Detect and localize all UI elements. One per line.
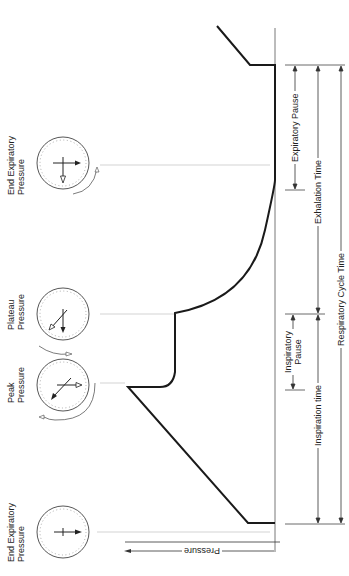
gauge-label-line1: Peak (6, 367, 16, 403)
gauge-label-line1: Plateau (6, 294, 16, 330)
inspiration-time-label: Inspiration time (313, 383, 323, 448)
gauge-label-plateau: Plateau Pressure (6, 294, 26, 330)
respiratory-cycle-time-label: Respiratory Cycle Time (336, 251, 346, 348)
gauge-end-expiratory-top (37, 137, 99, 194)
gauge-label-line2: Pressure (16, 136, 26, 195)
gauge-label-peak: Peak Pressure (6, 367, 26, 403)
pressure-waveform (128, 26, 275, 523)
gauge-plateau (37, 288, 89, 356)
exhalation-time-label: Exhalation Time (313, 158, 323, 226)
gauge-label-line2: Pressure (16, 294, 26, 330)
guide-lines (97, 165, 270, 532)
gauge-end-expiratory-bottom (37, 506, 89, 558)
ventilation-pressure-diagram (0, 0, 349, 576)
gauge-label-line1: End Expiratory (6, 136, 16, 195)
gauge-label-end-expiratory-top: End Expiratory Pressure (6, 136, 26, 195)
gauge-label-line1: End Expiratory (6, 503, 16, 562)
gauge-label-end-expiratory-bottom: End Expiratory Pressure (6, 503, 26, 562)
expiratory-pause-label: Expiratory Pause (290, 91, 300, 164)
inspiratory-pause-line1: Inspiratory (283, 331, 293, 373)
gauge-peak (37, 359, 95, 420)
inspiratory-pause-line2: Pause (293, 331, 303, 373)
inspiratory-pause-label: Inspiratory Pause (283, 329, 303, 375)
gauge-label-line2: Pressure (16, 503, 26, 562)
pressure-axis-label: Pressure (182, 546, 222, 556)
gauge-label-line2: Pressure (16, 367, 26, 403)
